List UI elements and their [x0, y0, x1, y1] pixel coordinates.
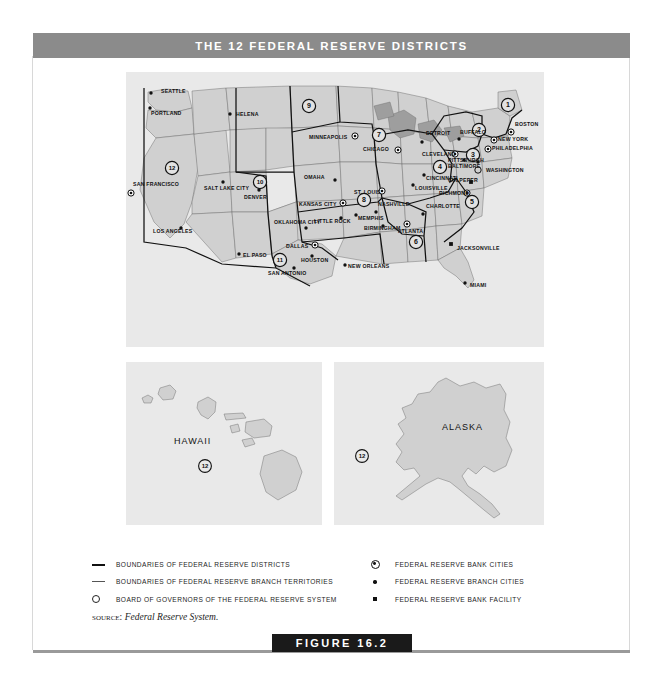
city-label: KANSAS CITY: [299, 201, 337, 207]
branch-city-icon: [304, 226, 307, 229]
reserve-bank-city-icon-core: [314, 244, 317, 247]
city-label: SEATTLE: [161, 88, 186, 94]
district-number: 4: [438, 163, 442, 170]
reserve-bank-city-icon-core: [381, 190, 384, 193]
city-label: PORTLAND: [151, 110, 182, 116]
branch-city-icon: [149, 91, 152, 94]
legend-row: Federal Reserve Bank cities: [364, 556, 564, 573]
legend-column-right: Federal Reserve Bank citiesFederal Reser…: [364, 556, 564, 608]
city-label: EL PASO: [243, 252, 267, 258]
district-marker-10: 10: [253, 175, 266, 188]
city-dallas: DALLAS: [286, 242, 318, 249]
district-marker-6: 6: [409, 235, 422, 248]
alaska-map-panel: ALASKA 12: [334, 362, 544, 525]
district-number: 1: [506, 101, 510, 108]
city-label: OKLAHOMA CITY: [274, 219, 321, 225]
bank-facility-icon-glyph: [373, 597, 377, 601]
reserve-bank-city-icon-core: [493, 139, 496, 142]
legend-label: Federal Reserve Branch cities: [386, 578, 524, 585]
city-label: SAN FRANCISCO: [133, 181, 179, 187]
city-birmingham: BIRMINGHAM: [364, 224, 401, 231]
legend-row: Federal Reserve Branch cities: [364, 573, 564, 590]
bank-facility-icon: [364, 597, 386, 601]
legend-label: Boundaries of Federal Reserve Branch ter…: [116, 578, 333, 585]
district-marker-8: 8: [357, 193, 370, 206]
district-number: 11: [277, 257, 284, 263]
city-richmond: RICHMOND: [439, 190, 470, 196]
source-line: SOURCE: Federal Reserve System.: [92, 612, 218, 622]
legend-column-left: Boundaries of Federal Reserve DistrictsB…: [92, 556, 352, 608]
city-label: HELENA: [236, 111, 259, 117]
alaska-district-number: 12: [359, 453, 366, 459]
hawaii-district-number: 12: [202, 463, 209, 469]
figure-number-banner: FIGURE 16.2: [272, 634, 412, 652]
state-boundaries: [140, 86, 522, 288]
continental-us-map-panel: 123456789101112 SEATTLEPORTLANDHELENAMIN…: [126, 72, 544, 347]
source-label: SOURCE:: [92, 612, 122, 622]
city-label: DETROIT: [426, 130, 451, 136]
hawaii-map-svg: HAWAII 12: [126, 362, 322, 525]
hawaii-map-panel: HAWAII 12: [126, 362, 322, 525]
alaska-map-svg: ALASKA 12: [334, 362, 544, 525]
reserve-bank-city-icon-glyph: [371, 560, 380, 569]
legend-label: Boundaries of Federal Reserve Districts: [116, 561, 290, 568]
city-label: SALT LAKE CITY: [204, 185, 249, 191]
branch-city-icon: [364, 580, 386, 583]
city-label: JACKSONVILLE: [457, 245, 500, 251]
branch-city-icon: [228, 112, 231, 115]
city-label: WASHINGTON: [486, 167, 524, 173]
reserve-bank-city-icon: [364, 560, 386, 569]
branch-city-icon: [374, 210, 377, 213]
reserve-bank-city-icon-core: [406, 223, 409, 226]
thin-line-icon-glyph: [92, 581, 105, 582]
branch-city-icon: [221, 180, 224, 183]
city-label: ST. LOUIS: [354, 189, 381, 195]
legend-row: Boundaries of Federal Reserve Districts: [92, 556, 352, 573]
branch-city-icon: [463, 281, 466, 284]
district-marker-9: 9: [302, 99, 315, 112]
legend-row: Federal Reserve Bank facility: [364, 591, 564, 608]
alaska-label: ALASKA: [442, 422, 483, 432]
branch-city-icon: [457, 137, 460, 140]
legend-row: Boundaries of Federal Reserve Branch ter…: [92, 573, 352, 590]
city-label: BIRMINGHAM: [364, 225, 401, 231]
city-label: LOS ANGELES: [153, 228, 193, 234]
city-label: NEW ORLEANS: [348, 263, 390, 269]
city-new-orleans: NEW ORLEANS: [343, 263, 389, 269]
district-marker-5: 5: [465, 195, 478, 208]
continental-us-map-svg: 123456789101112 SEATTLEPORTLANDHELENAMIN…: [126, 72, 544, 347]
city-memphis: MEMPHIS: [354, 213, 384, 221]
city-label: RICHMOND: [439, 190, 469, 196]
district-number: 12: [169, 165, 176, 171]
thick-line-icon: [92, 564, 116, 566]
city-label: DENVER: [244, 194, 267, 200]
city-culpeper: CULPEPER: [448, 177, 478, 184]
reserve-bank-city-icon-core: [510, 131, 513, 134]
figure-page: THE 12 FEDERAL RESERVE DISTRICTS: [0, 0, 658, 691]
city-label: ATLANTA: [398, 228, 423, 234]
city-label: SAN ANTONIO: [268, 270, 306, 276]
city-label: MINNEAPOLIS: [309, 134, 348, 140]
hawaii-district-marker: 12: [199, 460, 212, 473]
map-legend: Boundaries of Federal Reserve DistrictsB…: [92, 556, 562, 608]
city-label: CULPEPER: [448, 177, 478, 183]
city-st-louis: ST. LOUIS: [354, 188, 385, 195]
city-label: CHARLOTTE: [426, 203, 460, 209]
city-los-angeles: LOS ANGELES: [153, 226, 193, 234]
branch-city-icon: [333, 178, 336, 181]
district-marker-1: 1: [501, 98, 514, 111]
page-border-right: [629, 56, 630, 650]
city-label: OMAHA: [304, 174, 325, 180]
alaska-district-marker: 12: [356, 450, 369, 463]
thick-line-icon-glyph: [92, 564, 105, 566]
legend-row: Board of Governors of the Federal Reserv…: [92, 591, 352, 608]
reserve-bank-city-icon-core: [487, 148, 490, 151]
legend-label: Federal Reserve Bank facility: [386, 596, 522, 603]
branch-city-icon: [257, 188, 260, 191]
city-label: MIAMI: [470, 282, 487, 288]
board-of-governors-icon: [92, 595, 116, 603]
district-number: 6: [414, 238, 418, 245]
city-label: NEW YORK: [498, 136, 528, 142]
figure-number-label: FIGURE 16.2: [296, 637, 388, 649]
district-number: 7: [377, 131, 381, 138]
